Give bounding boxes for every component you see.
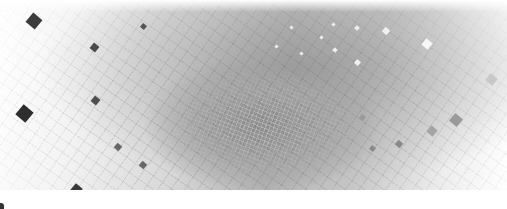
vortex-center-texture bbox=[0, 0, 507, 190]
top-fade bbox=[0, 0, 507, 12]
corner-mark bbox=[0, 203, 4, 209]
abstract-vortex-image bbox=[0, 0, 507, 190]
